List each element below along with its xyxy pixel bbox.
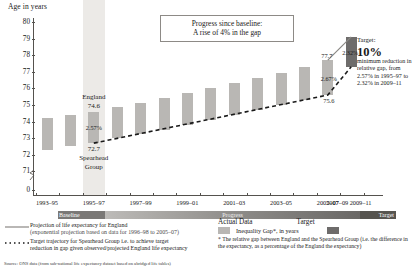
spearhead-label-line1: Spearhead [79, 154, 108, 162]
baseline-gap-label: 2.57% [86, 124, 102, 131]
y2005-top-label: 77.7 [321, 52, 332, 59]
solid-line-icon [4, 222, 30, 229]
y-axis-tick-label: 72 [23, 151, 30, 159]
x-axis-tick-label: 2001–03 [223, 199, 245, 206]
x-axis-tick-label: 1997–99 [130, 199, 152, 206]
y-axis-tick-label: 0 [26, 186, 30, 194]
target-gap-label: 2.32% [342, 48, 358, 55]
target-swatch [327, 227, 339, 234]
y-axis-tick-label: 73 [23, 134, 30, 142]
y-axis-tick-label: 77 [23, 68, 30, 76]
x-axis-tick-label: 2007–09 [326, 199, 348, 206]
y-axis-tick-label: 78 [23, 51, 30, 59]
dashed-line-icon [4, 238, 30, 245]
x-axis-tick-label: 1993–95 [36, 199, 58, 206]
england-value-label: 74.6 [88, 102, 100, 110]
spearhead-label-line2: Group [85, 163, 103, 171]
inequality-gap-swatch [218, 227, 230, 234]
chart-canvas: Age in years Progress since baseline: A … [0, 0, 419, 272]
plot-area: 071727374757677787980 1993–951995–971997… [33, 18, 383, 196]
spearhead-value-label: 72.7 [88, 145, 100, 153]
spearhead-target-trajectory [94, 67, 351, 143]
x-axis-tick-label: 1995–97 [83, 199, 105, 206]
england-label: England [82, 93, 105, 101]
y-axis-tick-label: 76 [23, 84, 30, 92]
axis-break-icon [29, 170, 38, 182]
phase-baseline: Baseline [58, 211, 105, 219]
legend-actual-data-title: Actual Data [218, 218, 253, 226]
legend-swatches: Actual Data Target Inequality Gap*, in y… [218, 218, 418, 250]
y-axis-tick-label: 79 [23, 35, 30, 43]
x-axis-tick-label: 2003–05 [270, 199, 292, 206]
y2005-bottom-label: 75.6 [323, 97, 334, 104]
legend-footnote: * The relative gap between England and t… [218, 236, 414, 250]
y-axis-title: Age in years [8, 2, 47, 11]
x-axis-tick-label: 2009–11 [350, 199, 372, 206]
legend-target-title: Target [297, 218, 315, 226]
source-note: Source: ONS data (from sub-national life… [4, 261, 171, 266]
y2005-gap-label: 2.67% [321, 74, 337, 81]
legend-swatch-label: Inequality Gap*, in years [236, 227, 299, 234]
x-axis-tick-label: 1999–01 [176, 199, 198, 206]
y-axis-tick-label: 80 [23, 18, 30, 26]
y-axis-tick-label: 74 [23, 118, 30, 126]
y-axis-tick-label: 75 [23, 101, 30, 109]
